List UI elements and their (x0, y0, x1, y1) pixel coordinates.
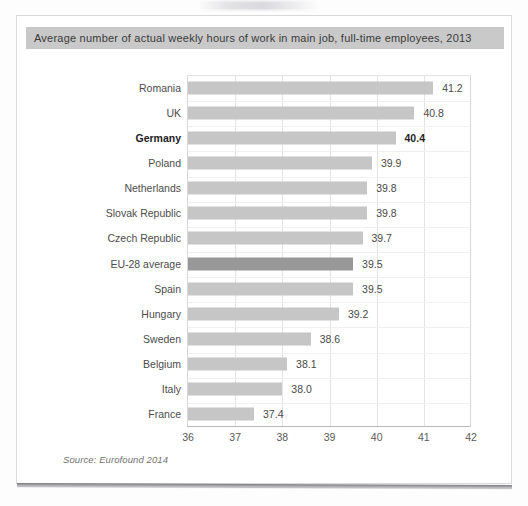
bar-value-label: 41.2 (442, 82, 462, 94)
bar-category-label: UK (166, 107, 181, 119)
bar (188, 307, 339, 320)
scan-artifact (198, 1, 318, 10)
bar-value-label: 39.7 (372, 232, 392, 244)
bar (188, 257, 353, 270)
bar-value-label: 40.4 (405, 132, 425, 144)
x-axis-tick-label: 38 (276, 431, 288, 443)
bar-category-label: Spain (154, 283, 181, 295)
bar-value-label: 38.1 (296, 358, 316, 370)
x-axis-tick-label: 39 (324, 431, 336, 443)
bar-row: Hungary39.2 (17, 301, 513, 326)
bar-value-label: 39.8 (376, 207, 396, 219)
bar-category-label: France (148, 408, 181, 420)
bar-value-label: 38.6 (320, 333, 340, 345)
bar-category-label: Romania (139, 82, 181, 94)
x-axis-tick-label: 36 (182, 431, 194, 443)
bar-category-label: EU-28 average (110, 258, 181, 270)
bar-category-label: Czech Republic (107, 232, 181, 244)
bar-value-label: 39.9 (381, 157, 401, 169)
bar-category-label: Italy (162, 383, 181, 395)
x-axis-tick-label: 40 (371, 431, 383, 443)
bar-category-label: Germany (135, 132, 181, 144)
chart-title-banner: Average number of actual weekly hours of… (26, 27, 504, 49)
bar-row: France37.4 (17, 402, 513, 427)
bar (188, 182, 367, 195)
bar-category-label: Netherlands (124, 182, 181, 194)
bar-row: EU-28 average39.5 (17, 251, 513, 276)
bar-row: Romania41.2 (17, 75, 513, 100)
bar-category-label: Hungary (141, 308, 181, 320)
bar (188, 383, 282, 396)
bar (188, 232, 363, 245)
chart-slide-card: Average number of actual weekly hours of… (16, 15, 512, 484)
bar-row: Belgium38.1 (17, 352, 513, 377)
bar-value-label: 39.8 (376, 182, 396, 194)
bar (188, 156, 372, 169)
x-axis: 36373839404142 (187, 431, 472, 447)
bar-row: Netherlands39.8 (17, 176, 513, 201)
bar-value-label: 39.5 (362, 283, 382, 295)
bar-value-label: 39.2 (348, 308, 368, 320)
bar-row: Slovak Republic39.8 (17, 201, 513, 226)
source-note: Source: Eurofound 2014 (63, 454, 168, 465)
bar (188, 81, 433, 94)
bar (188, 358, 287, 371)
bar-row: Spain39.5 (17, 276, 513, 301)
bar-chart: Romania41.2UK40.8Germany40.4Poland39.9Ne… (17, 63, 513, 458)
bar-row: UK40.8 (17, 100, 513, 125)
bar (188, 332, 311, 345)
x-axis-tick-label: 41 (418, 431, 430, 443)
bar-row: Italy38.0 (17, 377, 513, 402)
chart-title: Average number of actual weekly hours of… (26, 32, 472, 44)
bar (188, 207, 367, 220)
bar-category-label: Poland (148, 157, 181, 169)
bar-row: Poland39.9 (17, 150, 513, 175)
bar-category-label: Belgium (143, 358, 181, 370)
x-axis-tick-label: 37 (229, 431, 241, 443)
bar-category-label: Sweden (143, 333, 181, 345)
bar-row: Germany40.4 (17, 125, 513, 150)
bar (188, 282, 353, 295)
bar-rows: Romania41.2UK40.8Germany40.4Poland39.9Ne… (17, 75, 513, 427)
bar (188, 408, 254, 421)
bar-value-label: 40.8 (423, 107, 443, 119)
x-axis-tick-label: 42 (465, 431, 477, 443)
bar-value-label: 39.5 (362, 258, 382, 270)
bar-value-label: 37.4 (263, 408, 283, 420)
bar-category-label: Slovak Republic (106, 207, 181, 219)
scanned-page: Average number of actual weekly hours of… (0, 0, 528, 506)
bar-row: Sweden38.6 (17, 326, 513, 351)
bar-value-label: 38.0 (291, 383, 311, 395)
bar-row: Czech Republic39.7 (17, 226, 513, 251)
bar (188, 106, 414, 119)
bar (188, 131, 396, 144)
